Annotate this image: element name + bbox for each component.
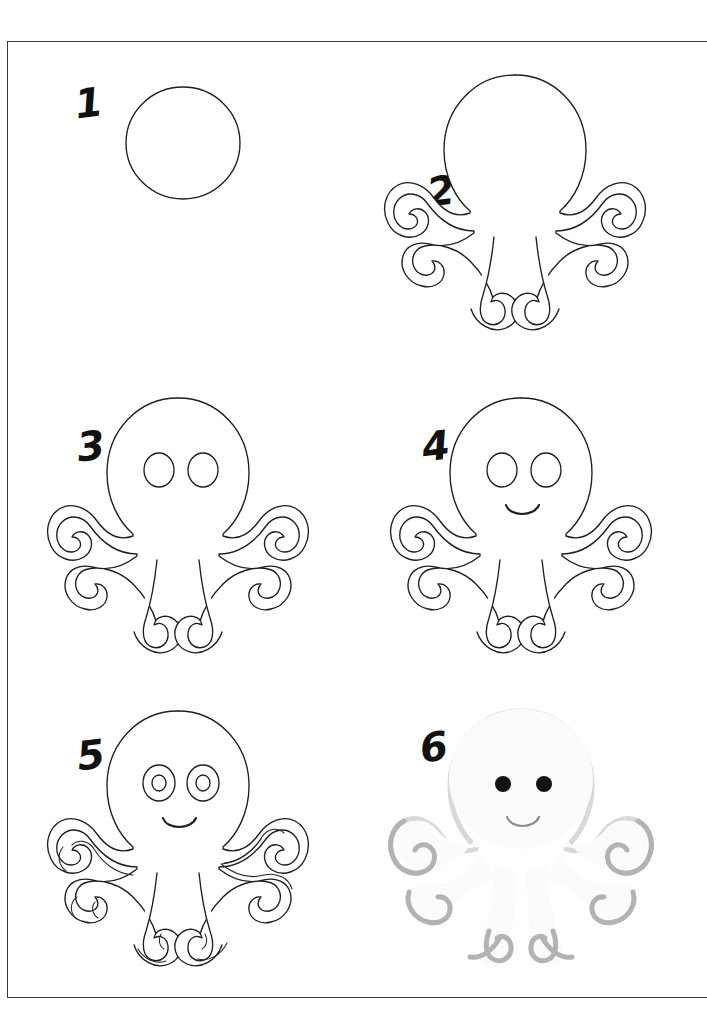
- eye-right: [536, 776, 552, 792]
- head-oval-icon: [121, 77, 251, 207]
- steps-grid: 1 2: [7, 41, 693, 998]
- octopus-coloured-icon: [376, 687, 666, 977]
- step-panel-1[interactable]: 1: [7, 41, 350, 360]
- octopus-with-smile-icon: [376, 374, 666, 664]
- step-panel-6[interactable]: 6: [350, 679, 693, 998]
- step-number-1: 1: [73, 81, 106, 124]
- step-panel-3[interactable]: 3: [7, 360, 350, 679]
- step-6-drawing: [376, 687, 666, 977]
- octopus-outline-icon: [370, 51, 660, 341]
- step-1-drawing: [121, 77, 251, 207]
- step-panel-2[interactable]: 2: [350, 41, 693, 360]
- octopus-with-eyes-icon: [33, 374, 323, 664]
- octopus-detailed-icon: [33, 687, 323, 977]
- step-3-drawing: [33, 374, 323, 664]
- step-4-drawing: [376, 374, 666, 664]
- step-panel-5[interactable]: 5: [7, 679, 350, 998]
- eye-left: [495, 776, 511, 792]
- step-5-drawing: [33, 687, 323, 977]
- step-panel-4[interactable]: 4: [350, 360, 693, 679]
- step-2-drawing: [370, 51, 660, 341]
- octopus-body-fill: [395, 709, 648, 967]
